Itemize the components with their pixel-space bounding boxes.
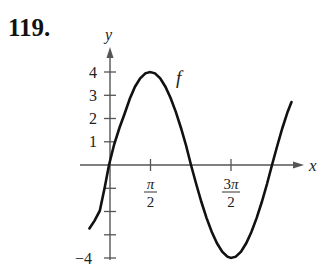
x-axis-arrow-icon <box>293 162 304 169</box>
y-tick-1: 1 <box>89 133 97 150</box>
sine-graph: y x 4 3 2 1 −4 π 2 3π 2 f <box>0 0 329 275</box>
svg-text:3π: 3π <box>223 176 239 192</box>
y-axis-label: y <box>103 26 113 44</box>
y-axis-arrow-icon <box>107 47 114 58</box>
y-tick-3: 3 <box>89 87 97 104</box>
svg-text:2: 2 <box>147 194 155 210</box>
x-axis-label: x <box>308 156 317 175</box>
y-tick-4: 4 <box>89 64 97 81</box>
y-axis <box>104 47 116 260</box>
svg-text:π: π <box>147 176 155 192</box>
svg-text:2: 2 <box>227 194 235 210</box>
x-tick-pi-over-2: π 2 <box>144 176 157 210</box>
function-label: f <box>176 67 184 88</box>
y-tick-2: 2 <box>89 110 97 127</box>
x-tick-3pi-over-2: 3π 2 <box>222 176 240 210</box>
y-tick-neg4: −4 <box>75 250 92 267</box>
